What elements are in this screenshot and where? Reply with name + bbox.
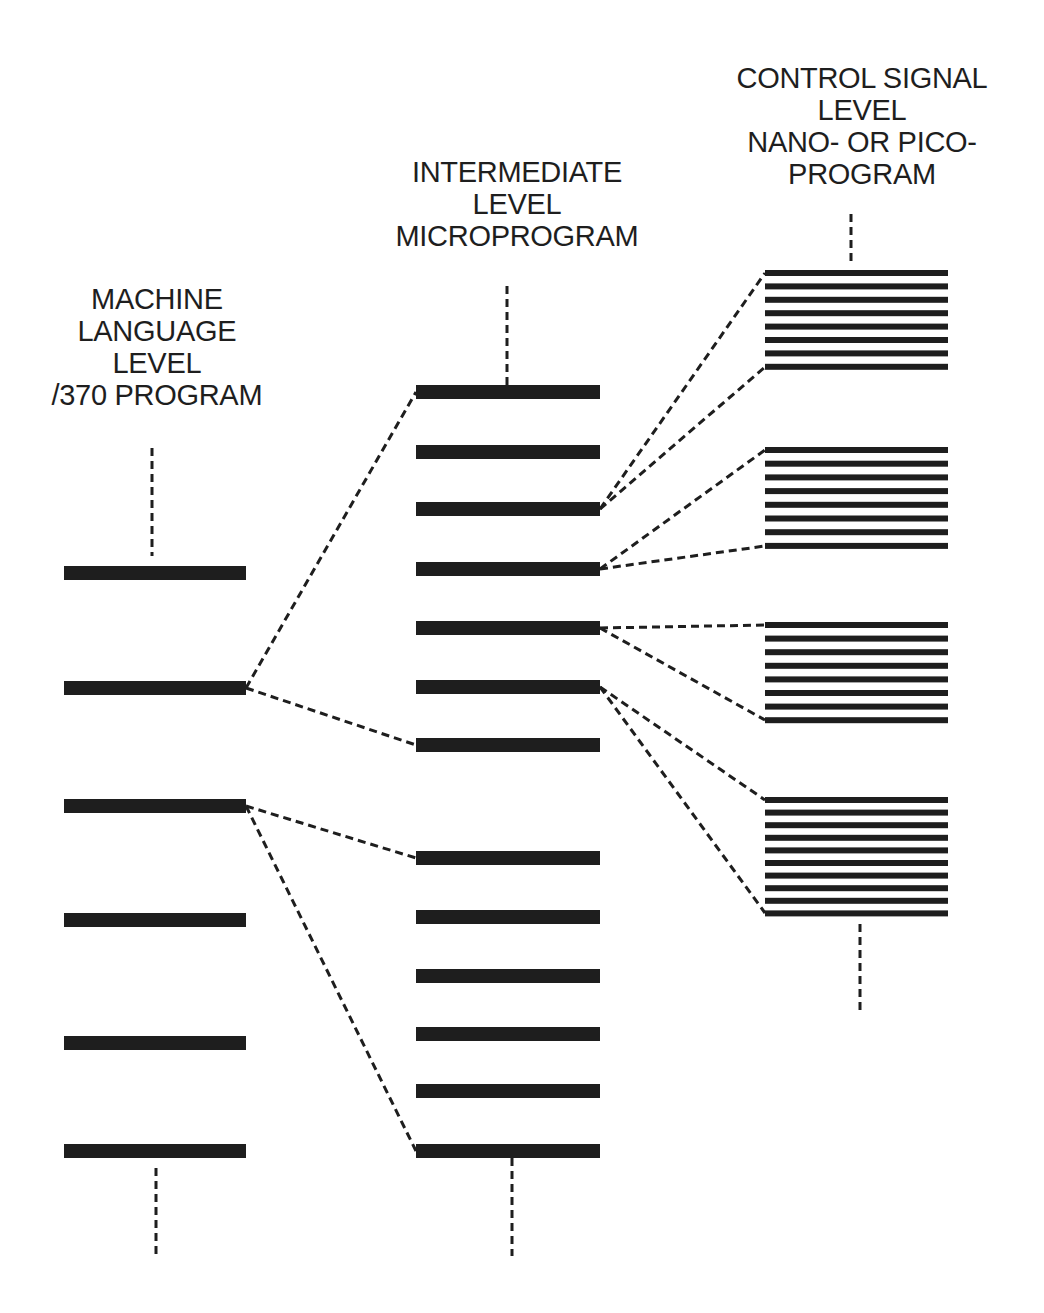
- control-signal-bar-group-3: [765, 622, 948, 628]
- control-signal-bar-group-1: [765, 310, 948, 316]
- control-signal-bar-group-4: [765, 835, 948, 841]
- connector-line: [246, 392, 416, 688]
- control-signal-bar-group-1: [765, 364, 948, 370]
- label-line: INTERMEDIATE: [396, 156, 639, 188]
- machine-instruction-bar: [64, 1144, 246, 1158]
- label-line: NANO- OR PICO-: [737, 126, 988, 158]
- control-signal-bar-group-2: [765, 516, 948, 522]
- connector-line: [600, 628, 765, 720]
- connector-line: [600, 367, 765, 509]
- label-line: CONTROL SIGNAL: [737, 62, 988, 94]
- label-line: PROGRAM: [737, 158, 988, 190]
- control-signal-bar-group-1: [765, 324, 948, 330]
- intermediate-instruction-bar: [416, 385, 600, 399]
- intermediate-level-label: INTERMEDIATE LEVEL MICROPROGRAM: [396, 156, 639, 252]
- connector-line: [600, 687, 765, 913]
- intermediate-instruction-bar: [416, 1144, 600, 1158]
- intermediate-instruction-bar: [416, 910, 600, 924]
- label-line: LANGUAGE: [52, 315, 263, 347]
- label-line: LEVEL: [396, 188, 639, 220]
- control-signal-bar-group-1: [765, 270, 948, 276]
- intermediate-instruction-bar: [416, 680, 600, 694]
- control-signal-bar-group-2: [765, 488, 948, 494]
- control-signal-bar-group-4: [765, 822, 948, 828]
- machine-instruction-bar: [64, 799, 246, 813]
- connector-line: [600, 687, 765, 800]
- control-signal-level-label: CONTROL SIGNAL LEVEL NANO- OR PICO- PROG…: [737, 62, 988, 190]
- control-signal-bar-group-4: [765, 797, 948, 803]
- control-signal-bar-group-2: [765, 461, 948, 467]
- control-signal-bar-group-3: [765, 717, 948, 723]
- connector-line: [246, 806, 416, 1151]
- control-signal-bar-group-4: [765, 810, 948, 816]
- control-signal-bar-group-4: [765, 885, 948, 891]
- label-line: MACHINE: [52, 283, 263, 315]
- connector-line: [600, 450, 765, 569]
- control-signal-bar-group-2: [765, 474, 948, 480]
- intermediate-instruction-bar: [416, 621, 600, 635]
- control-signal-bar-group-1: [765, 283, 948, 289]
- machine-instruction-bar: [64, 681, 246, 695]
- intermediate-instruction-bar: [416, 562, 600, 576]
- control-signal-bar-group-4: [765, 898, 948, 904]
- control-signal-bar-group-3: [765, 649, 948, 655]
- machine-instruction-bar: [64, 566, 246, 580]
- intermediate-instruction-bar: [416, 502, 600, 516]
- control-signal-bar-group-4: [765, 873, 948, 879]
- machine-language-level-label: MACHINE LANGUAGE LEVEL /370 PROGRAM: [52, 283, 263, 411]
- connector-line: [246, 806, 416, 858]
- control-signal-bar-group-3: [765, 636, 948, 642]
- control-signal-bar-group-3: [765, 690, 948, 696]
- label-line: /370 PROGRAM: [52, 379, 263, 411]
- connector-line: [600, 273, 765, 509]
- connector-line: [600, 625, 765, 628]
- control-signal-bar-group-1: [765, 297, 948, 303]
- control-signal-bar-group-4: [765, 847, 948, 853]
- control-signal-bar-group-2: [765, 529, 948, 535]
- program-levels-diagram: MACHINE LANGUAGE LEVEL /370 PROGRAM INTE…: [0, 0, 1044, 1313]
- control-signal-bar-group-2: [765, 502, 948, 508]
- intermediate-instruction-bar: [416, 969, 600, 983]
- control-signal-bar-group-4: [765, 910, 948, 916]
- control-signal-bar-group-2: [765, 447, 948, 453]
- control-signal-bar-group-1: [765, 350, 948, 356]
- control-signal-bar-group-2: [765, 543, 948, 549]
- label-line: LEVEL: [737, 94, 988, 126]
- intermediate-instruction-bar: [416, 851, 600, 865]
- machine-instruction-bar: [64, 1036, 246, 1050]
- control-signal-bar-group-3: [765, 676, 948, 682]
- connector-line: [246, 688, 416, 745]
- machine-instruction-bar: [64, 913, 246, 927]
- intermediate-instruction-bar: [416, 1084, 600, 1098]
- control-signal-bar-group-3: [765, 704, 948, 710]
- intermediate-instruction-bar: [416, 738, 600, 752]
- control-signal-bar-group-4: [765, 860, 948, 866]
- control-signal-bar-group-3: [765, 663, 948, 669]
- label-line: MICROPROGRAM: [396, 220, 639, 252]
- intermediate-instruction-bar: [416, 1027, 600, 1041]
- control-signal-bar-group-1: [765, 337, 948, 343]
- label-line: LEVEL: [52, 347, 263, 379]
- intermediate-instruction-bar: [416, 445, 600, 459]
